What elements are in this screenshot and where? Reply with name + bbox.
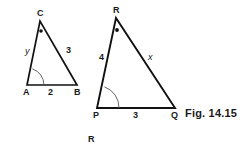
figure-caption: Fig. 14.15: [185, 108, 237, 119]
side-label-ac-y: y: [25, 47, 30, 56]
vertex-label-b: B: [74, 88, 81, 97]
angle-dot-c: [39, 29, 43, 33]
geometry-figure: A B C y 3 2 P Q R 4 x 3 Fig. 14.15 R: [0, 0, 243, 151]
stray-vertex-label-r: R: [88, 135, 95, 144]
side-label-ab-2: 2: [48, 88, 53, 97]
vertex-label-p: P: [93, 111, 99, 120]
angle-dot-r: [115, 28, 119, 32]
angle-arc-a: [32, 69, 44, 85]
vertex-label-c: C: [37, 9, 44, 18]
vertex-label-r: R: [113, 6, 120, 15]
side-label-cb-3: 3: [66, 46, 71, 55]
side-label-pq-3: 3: [133, 111, 138, 120]
vertex-label-q: Q: [171, 111, 178, 120]
triangle-pqr-outline: [97, 18, 175, 108]
side-label-pr-4: 4: [99, 53, 104, 62]
figure-drawing: [0, 0, 243, 151]
vertex-label-a: A: [23, 88, 30, 97]
side-label-rq-x: x: [148, 53, 153, 62]
angle-arc-p: [104, 87, 119, 108]
